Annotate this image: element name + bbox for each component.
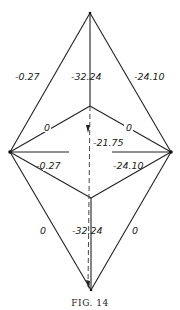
- edge-bottom-right: [91, 152, 171, 290]
- edge-bottom-left: [10, 152, 91, 290]
- label-lower-center-edge: -32.24: [72, 225, 103, 236]
- node-right: [169, 150, 173, 154]
- label-upper-right-spoke: 0: [126, 122, 132, 133]
- force-diagram: -0.27 -32.24 -24.10 0 0 -21.75 -0.27 -24…: [0, 0, 180, 310]
- label-lower-left-edge: 0: [40, 225, 46, 236]
- label-upper-center-edge: -32.24: [71, 71, 102, 82]
- label-upper-left-edge: -0.27: [15, 71, 40, 82]
- label-center-dashed: -21.75: [93, 137, 124, 148]
- node-bottom: [90, 289, 93, 292]
- label-upper-left-spoke: 0: [44, 122, 50, 133]
- spoke-lower-left: [10, 152, 91, 198]
- node-top: [89, 12, 92, 15]
- label-upper-right-edge: -24.10: [134, 71, 165, 82]
- node-left: [8, 150, 12, 154]
- figure-caption: FIG. 14: [71, 298, 108, 308]
- spoke-lower-right: [91, 152, 171, 198]
- label-lower-left-spoke: -0.27: [36, 160, 61, 171]
- label-lower-right-spoke: -24.10: [113, 160, 144, 171]
- label-lower-right-edge: 0: [132, 225, 138, 236]
